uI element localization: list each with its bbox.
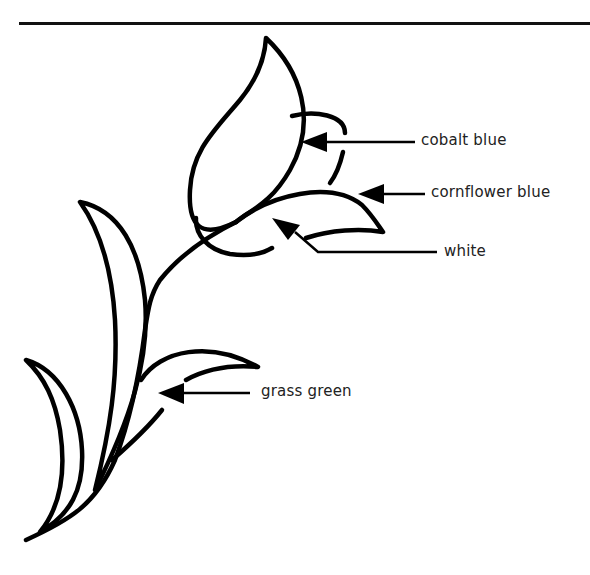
back-petal [292,114,345,133]
label-cornflower-blue: cornflower blue [431,183,550,201]
right-leaf [141,351,258,380]
label-grass-green: grass green [261,382,352,400]
front-petal [236,192,383,238]
long-leaf [80,202,146,490]
label-white: white [444,242,486,260]
arrowhead-cobalt [301,132,327,152]
arrowhead-cornflower [358,184,384,204]
tall-petal [190,38,304,230]
label-cobalt-blue: cobalt blue [421,131,507,149]
back-petal-lower [330,152,343,183]
arrowhead-white [272,218,300,240]
arrowhead-grass [158,383,184,404]
crescent-leaf [26,360,82,532]
flower-drawing [0,0,590,575]
